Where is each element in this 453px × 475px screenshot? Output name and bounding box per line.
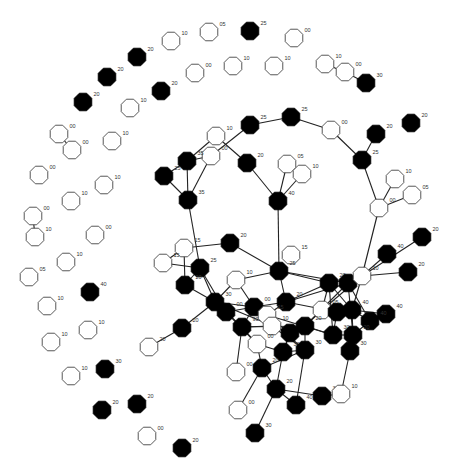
open-node-shape bbox=[403, 186, 421, 204]
node-c60: 40 bbox=[287, 394, 312, 414]
node-label: 00 bbox=[50, 164, 56, 170]
open-node-shape bbox=[50, 125, 68, 143]
node-n17: 00 bbox=[63, 139, 88, 159]
node-label: 05 bbox=[423, 184, 429, 190]
node-label: 40 bbox=[101, 281, 107, 287]
node-label: 20 bbox=[148, 46, 154, 52]
nodes-layer: 2505001020101000201000302020100000100010… bbox=[20, 20, 438, 457]
node-c20: 20 bbox=[413, 226, 438, 246]
node-label: 40 bbox=[381, 310, 387, 316]
node-label: 40 bbox=[363, 299, 369, 305]
node-label: 35 bbox=[199, 189, 205, 195]
node-label: 20 bbox=[433, 226, 439, 232]
filled-node-shape bbox=[269, 192, 287, 210]
node-c9: 35 bbox=[178, 150, 203, 170]
node-n32: 10 bbox=[62, 365, 87, 385]
node-label: 35 bbox=[198, 150, 204, 156]
node-c2: 25 bbox=[282, 106, 307, 126]
node-c18: 00 bbox=[370, 197, 395, 217]
filled-node-shape bbox=[296, 317, 314, 335]
node-label: 00 bbox=[237, 301, 243, 307]
open-node-shape bbox=[95, 176, 113, 194]
node-label: 20 bbox=[258, 152, 264, 158]
node-label: 20 bbox=[387, 123, 393, 129]
node-label: 10 bbox=[406, 168, 412, 174]
node-n22: 00 bbox=[24, 205, 49, 225]
open-node-shape bbox=[227, 363, 245, 381]
node-label: 20 bbox=[148, 393, 154, 399]
node-label: 20 bbox=[287, 378, 293, 384]
node-label: 10 bbox=[313, 163, 319, 169]
node-label: 25 bbox=[302, 106, 308, 112]
open-node-shape bbox=[162, 32, 180, 50]
node-label: 10 bbox=[373, 265, 379, 271]
filled-node-shape bbox=[343, 301, 361, 319]
filled-node-shape bbox=[221, 234, 239, 252]
node-c8: 00 bbox=[202, 145, 227, 165]
open-node-shape bbox=[186, 64, 204, 82]
node-label: 40 bbox=[289, 190, 295, 196]
node-label: 00 bbox=[265, 296, 271, 302]
node-label: 25 bbox=[261, 114, 267, 120]
node-label: 10 bbox=[46, 226, 52, 232]
node-label: 00 bbox=[356, 61, 362, 67]
node-label: 20 bbox=[160, 336, 166, 342]
node-c15: 40 bbox=[269, 190, 294, 210]
node-label: 10 bbox=[62, 331, 68, 337]
node-c5: 20 bbox=[402, 112, 427, 132]
node-c13: 10 bbox=[293, 163, 318, 183]
node-n35: 00 bbox=[138, 425, 163, 445]
filled-node-shape bbox=[267, 380, 285, 398]
filled-node-shape bbox=[93, 401, 111, 419]
node-n31: 30 bbox=[96, 358, 121, 378]
filled-node-shape bbox=[324, 326, 342, 344]
filled-node-shape bbox=[320, 274, 338, 292]
node-c6: 25 bbox=[353, 149, 378, 169]
network-graph: 2505001020101000201000302020100000100010… bbox=[0, 0, 453, 475]
open-node-shape bbox=[62, 367, 80, 385]
open-node-shape bbox=[20, 268, 38, 286]
node-label: 05 bbox=[40, 266, 46, 272]
node-label: 10 bbox=[82, 190, 88, 196]
open-node-shape bbox=[322, 121, 340, 139]
open-node-shape bbox=[224, 57, 242, 75]
open-node-shape bbox=[332, 385, 350, 403]
open-node-shape bbox=[353, 267, 371, 285]
node-n7: 10 bbox=[265, 55, 290, 75]
open-node-shape bbox=[202, 147, 220, 165]
node-c29: 20 bbox=[399, 261, 424, 281]
open-node-shape bbox=[265, 57, 283, 75]
node-c61: 00 bbox=[229, 399, 254, 419]
open-node-shape bbox=[26, 228, 44, 246]
node-label: 00 bbox=[83, 139, 89, 145]
open-node-shape bbox=[285, 29, 303, 47]
node-n20: 10 bbox=[95, 174, 120, 194]
node-label: 05 bbox=[220, 21, 226, 27]
edge-c14-c25 bbox=[188, 200, 200, 268]
node-label: 00 bbox=[206, 62, 212, 68]
node-n26: 05 bbox=[20, 266, 45, 286]
filled-node-shape bbox=[399, 263, 417, 281]
open-node-shape bbox=[79, 321, 97, 339]
node-label: 20 bbox=[297, 291, 303, 297]
open-node-shape bbox=[229, 401, 247, 419]
node-label: 20 bbox=[316, 315, 322, 321]
open-node-shape bbox=[42, 333, 60, 351]
open-node-shape bbox=[24, 207, 42, 225]
filled-node-shape bbox=[344, 326, 362, 344]
node-c27: 10 bbox=[227, 269, 252, 289]
node-label: 10 bbox=[244, 55, 250, 61]
filled-node-shape bbox=[253, 359, 271, 377]
open-node-shape bbox=[248, 335, 266, 353]
node-n6: 10 bbox=[224, 55, 249, 75]
open-node-shape bbox=[63, 141, 81, 159]
filled-node-shape bbox=[128, 48, 146, 66]
open-node-shape bbox=[57, 253, 75, 271]
node-label: 30 bbox=[266, 422, 272, 428]
filled-node-shape bbox=[246, 424, 264, 442]
node-n34: 20 bbox=[128, 393, 153, 413]
node-c43: 20 bbox=[173, 317, 198, 337]
node-label: 10 bbox=[182, 30, 188, 36]
node-c14: 35 bbox=[179, 189, 204, 209]
node-n15: 10 bbox=[121, 97, 146, 117]
